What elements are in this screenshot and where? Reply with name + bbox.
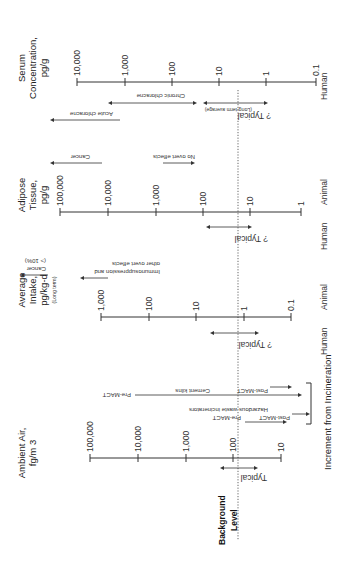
air-tick-label: 1,000 [181,430,191,452]
intake-cancer-label: Cancer [27,266,46,272]
adipose-tick-label: 10,000 [103,180,113,206]
adipose-tick-label: 10 [245,196,255,206]
serum-tick-label: 10 [214,66,224,76]
adipose-tick-label: 100,000 [55,175,65,206]
serum-species-human: Human [319,72,329,100]
intake-species-human: Human [319,327,329,355]
svg-text:Average: Average [16,272,27,307]
intake-tick-label: 100 [144,297,154,311]
adipose-cancer-label: Cancer [71,154,90,160]
cement-kilns-label: Cement kilns [175,388,210,394]
adipose-title: Adipose Tissue, pg/g [16,178,49,212]
svg-text:pg/g: pg/g [38,59,49,78]
svg-text:(Long term): (Long term) [51,276,57,303]
adipose-typical-label: ? Typical [234,234,268,244]
no-overt-effects-label: No overt effects [153,154,195,160]
serum-title: Serum Concentration, pg/g [16,37,49,99]
adipose-tick-label: 1 [296,201,306,206]
ambient-air-panel: Ambient Air, fg/m 3 100,000 10,000 1,000… [16,354,333,483]
serum-tick-label: 10,000 [72,50,82,76]
intake-typical-label: ? Typical [238,340,272,350]
intake-tick-label: 1 [239,306,249,311]
intake-tick-label: 0.1 [286,299,296,311]
svg-text:Concentration,: Concentration, [27,37,38,99]
intake-panel: Average Intake, pg/kg-d (Long term) 1,00… [16,258,329,355]
intake-tick-label: 1,000 [96,289,106,311]
serum-tick-label: 1,000 [120,54,130,76]
serum-tick-label: 100 [167,62,177,76]
svg-text:Serum: Serum [16,54,27,82]
serum-typical-label: ? Typical [237,111,271,121]
ambient-air-title: Ambient Air, fg/m 3 [16,428,38,479]
serum-tick-label: 1 [261,71,271,76]
air-tick-label: 10 [276,442,286,452]
air-tick-label: 100,000 [85,421,95,452]
serum-panel: Serum Concentration, pg/g 10,000 1,000 1… [16,37,329,122]
overt-effects-label: other overt effects [112,261,160,267]
svg-text:fg/m 3: fg/m 3 [27,440,38,466]
cement-kilns-post-mact-label: Post-MACT [237,388,268,394]
adipose-panel: Adipose Tissue, pg/g 100,000 10,000 1,00… [16,154,329,250]
svg-text:Adipose: Adipose [16,178,27,212]
hazardous-pre-mact-label: Pre-MACT [212,415,241,421]
svg-text:Intake,: Intake, [27,276,38,305]
intake-cancer-note: (> 10%) [25,258,46,264]
intake-title: Average Intake, pg/kg-d (Long term) [16,272,57,307]
background-label-line2: Level [229,509,239,531]
svg-text:pg/g: pg/g [38,186,49,205]
svg-text:pg/kg-d: pg/kg-d [38,274,49,306]
dioxin-exposure-diagram: Background Level Serum Concentration, pg… [0,0,355,576]
intake-tick-label: 10 [191,301,201,311]
air-typical-label: Typical [240,473,267,483]
immunosuppression-label: Immunosuppression and [94,269,160,275]
adipose-species-animal: Animal [319,179,329,205]
increment-from-incineration-label: Increment from Incineration [322,354,333,470]
intake-species-animal: Animal [319,284,329,310]
svg-text:Ambient Air,: Ambient Air, [16,428,27,479]
chronic-chloracne-label: Chronic chloracne [136,93,185,99]
air-tick-label: 100 [228,438,238,452]
adipose-tick-label: 100 [198,192,208,206]
adipose-species-human: Human [319,222,329,250]
acute-chloracne-label: Acute chloracne [69,111,113,117]
background-level-label: Background Level [217,495,239,545]
background-label-line1: Background [217,495,227,545]
cement-kilns-pre-mact-label: Pre-MACT [102,392,131,398]
air-tick-label: 10,000 [133,426,143,452]
svg-text:Tissue,: Tissue, [27,180,38,210]
increment-bracket [306,383,311,424]
hazardous-incinerators-label: Hazardous waste incinerators [189,407,268,413]
hazardous-post-mact-label: Post-MACT [259,415,290,421]
adipose-tick-label: 1,000 [151,184,161,206]
